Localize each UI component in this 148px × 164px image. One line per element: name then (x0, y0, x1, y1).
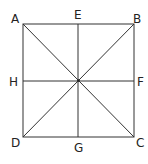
geometry-diagram: A E B H F D G C (0, 0, 148, 164)
label-f: F (137, 75, 144, 89)
label-a: A (11, 12, 20, 26)
label-d: D (11, 136, 20, 150)
label-h: H (9, 75, 18, 89)
label-e: E (74, 8, 82, 22)
label-b: B (133, 12, 141, 26)
label-c: C (136, 136, 144, 150)
label-g: G (74, 141, 83, 155)
center-point (77, 79, 80, 82)
